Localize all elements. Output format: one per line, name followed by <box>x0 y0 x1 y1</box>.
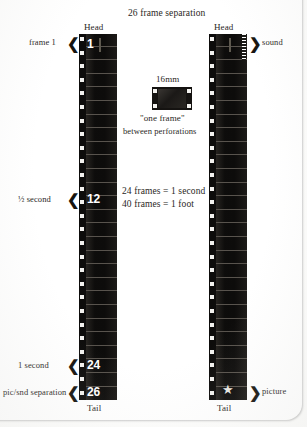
frame-line <box>216 358 247 359</box>
perforation <box>210 37 214 41</box>
perforation <box>80 132 84 136</box>
picture-frame-number-26: 26 <box>87 386 100 398</box>
callout-frame-1-label: frame 1 <box>29 37 56 47</box>
academy-leader-icon: ★ <box>222 383 234 396</box>
perforation <box>80 268 84 272</box>
optical-soundtrack-stripe <box>242 34 246 60</box>
perforation <box>210 146 214 150</box>
perforation <box>210 391 214 395</box>
frame-line <box>86 250 117 251</box>
perforation <box>80 119 84 123</box>
perforation <box>210 282 214 286</box>
perforation <box>210 350 214 354</box>
frame-line <box>86 263 117 264</box>
perforation <box>210 78 214 82</box>
frame-line <box>216 304 247 305</box>
picture-frame-number-1: 1 <box>87 38 93 50</box>
frame-perforation <box>153 104 157 108</box>
equation-frames-per-second: 24 frames = 1 second <box>122 186 205 196</box>
frame-line <box>86 168 117 169</box>
frame-line <box>216 100 247 101</box>
perforation <box>210 336 214 340</box>
frame-line <box>216 114 247 115</box>
frame-line <box>216 195 247 196</box>
picture-frame-number-24: 24 <box>87 359 100 371</box>
perforation <box>210 227 214 231</box>
perforation <box>210 64 214 68</box>
frame-line <box>216 263 247 264</box>
frame-perforation <box>187 89 191 93</box>
perforation <box>80 200 84 204</box>
frame-line <box>216 318 247 319</box>
chevron-left-icon: ❮ <box>67 358 80 373</box>
perforation <box>80 255 84 259</box>
perforation <box>210 200 214 204</box>
frame-line <box>86 236 117 237</box>
sound-tail-label: Tail <box>217 403 231 413</box>
paper-sheet <box>0 0 302 420</box>
perforation <box>80 336 84 340</box>
perforation <box>210 309 214 313</box>
frame-line <box>86 372 117 373</box>
frame-line <box>86 331 117 332</box>
head-scratch-mark <box>229 38 231 52</box>
chevron-right-icon: ❯ <box>249 36 262 51</box>
frame-line <box>86 59 117 60</box>
perforation <box>210 241 214 245</box>
frame-line <box>216 222 247 223</box>
perforation <box>80 51 84 55</box>
diagram-page: 26 frame separation Head 1 12 24 26 Tail… <box>0 0 307 427</box>
chevron-left-icon: ❮ <box>67 192 80 207</box>
perforation <box>80 187 84 191</box>
perforation <box>210 214 214 218</box>
picture-tail-label: Tail <box>87 403 101 413</box>
perforation <box>80 241 84 245</box>
perforation <box>80 323 84 327</box>
perforation <box>210 105 214 109</box>
picture-film-strip: 1 12 24 26 <box>79 34 117 400</box>
perforation <box>80 105 84 109</box>
perforation <box>80 78 84 82</box>
frame-line <box>86 318 117 319</box>
frame-line <box>216 236 247 237</box>
one-frame-quote: "one frame" <box>140 113 185 123</box>
perforation <box>80 282 84 286</box>
frame-line <box>86 86 117 87</box>
callout-one-second-label: 1 second <box>18 360 49 370</box>
perforation <box>80 350 84 354</box>
frame-perforation <box>153 89 157 93</box>
frame-line <box>216 182 247 183</box>
frame-line <box>86 154 117 155</box>
perforation <box>210 119 214 123</box>
perforation <box>80 91 84 95</box>
frame-line <box>86 127 117 128</box>
picture-head-label: Head <box>84 22 103 32</box>
chevron-left-icon: ❮ <box>67 36 80 51</box>
perforation <box>210 255 214 259</box>
perforation <box>210 51 214 55</box>
perforation <box>80 214 84 218</box>
picture-perforations <box>80 34 85 400</box>
frame-line <box>216 277 247 278</box>
frame-line <box>216 127 247 128</box>
frame-line <box>216 372 247 373</box>
picture-frame-number-12: 12 <box>87 193 100 205</box>
single-frame-illustration <box>152 87 192 110</box>
frame-line <box>86 114 117 115</box>
perforation <box>80 173 84 177</box>
chevron-left-icon: ❮ <box>67 385 80 400</box>
callout-half-second-label: ½ second <box>18 194 51 204</box>
sound-perforations <box>210 34 215 400</box>
picture-frame-lines <box>86 34 117 400</box>
frame-line <box>86 73 117 74</box>
head-scratch-mark <box>99 38 101 52</box>
perforation <box>210 363 214 367</box>
sound-film-strip: ★ <box>209 34 247 400</box>
perforation <box>210 173 214 177</box>
frame-line <box>216 73 247 74</box>
perforation <box>80 146 84 150</box>
frame-line <box>86 304 117 305</box>
frame-line <box>216 209 247 210</box>
equation-frames-per-foot: 40 frames = 1 foot <box>122 199 194 209</box>
frame-line <box>216 168 247 169</box>
